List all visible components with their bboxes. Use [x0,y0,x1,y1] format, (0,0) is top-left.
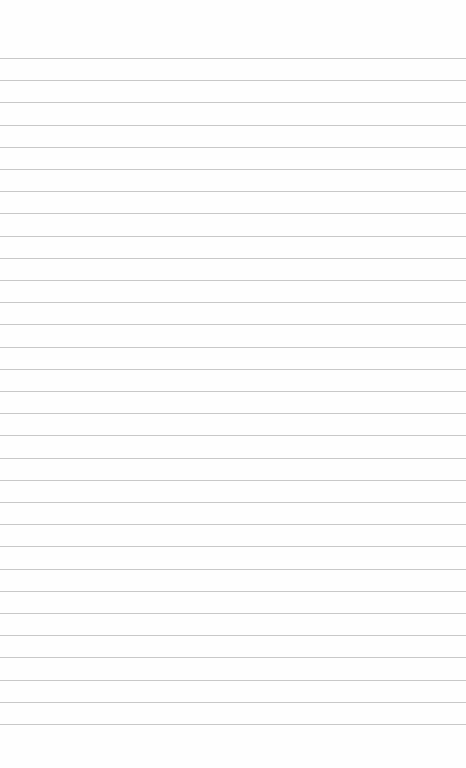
ruled-line [0,369,466,370]
ruled-line [0,435,466,436]
ruled-line [0,213,466,214]
ruled-line [0,347,466,348]
ruled-line [0,657,466,658]
ruled-line [0,724,466,725]
ruled-line [0,125,466,126]
ruled-line [0,413,466,414]
ruled-line [0,280,466,281]
ruled-line [0,102,466,103]
ruled-line [0,302,466,303]
ruled-line [0,80,466,81]
ruled-line [0,502,466,503]
ruled-line [0,702,466,703]
ruled-line [0,635,466,636]
ruled-line [0,480,466,481]
ruled-line [0,169,466,170]
ruled-line [0,191,466,192]
ruled-line [0,458,466,459]
ruled-line [0,58,466,59]
ruled-line [0,147,466,148]
ruled-line [0,546,466,547]
ruled-line [0,524,466,525]
ruled-line [0,258,466,259]
ruled-line [0,613,466,614]
ruled-line [0,680,466,681]
ruled-line [0,324,466,325]
ruled-line [0,391,466,392]
ruled-line [0,236,466,237]
ruled-line [0,591,466,592]
lined-paper-page [0,0,466,768]
ruled-line [0,569,466,570]
